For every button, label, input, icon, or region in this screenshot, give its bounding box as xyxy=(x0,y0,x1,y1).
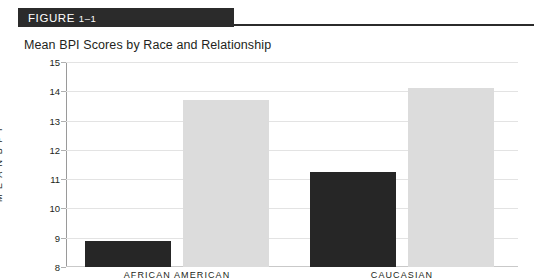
bar xyxy=(408,88,494,267)
y-axis-tick xyxy=(61,179,66,180)
y-axis-tick-label: 8 xyxy=(40,262,60,273)
y-axis-tick-labels: 89101112131415 xyxy=(40,62,60,267)
gridline xyxy=(66,62,518,63)
figure-page: FIGURE 1–1 Mean BPI Scores by Race and R… xyxy=(0,0,544,279)
y-axis-tick-label: 10 xyxy=(40,203,60,214)
figure-banner-number: 1–1 xyxy=(79,13,97,24)
chart-canvas xyxy=(66,62,518,267)
y-axis-tick xyxy=(61,267,66,268)
y-axis-tick-label: 11 xyxy=(40,174,60,185)
x-axis-label: CAUCASIAN xyxy=(312,270,492,279)
y-axis-tick xyxy=(61,150,66,151)
y-axis-tick-label: 15 xyxy=(40,57,60,68)
header-rule xyxy=(234,24,534,26)
figure-banner-text: FIGURE 1–1 xyxy=(18,12,97,24)
y-axis-tick xyxy=(61,62,66,63)
figure-banner: FIGURE 1–1 xyxy=(18,8,234,27)
y-axis-line xyxy=(66,62,67,267)
figure-banner-word: FIGURE xyxy=(28,12,75,24)
y-axis-tick-label: 12 xyxy=(40,144,60,155)
y-axis-tick-label: 13 xyxy=(40,115,60,126)
y-axis-tick xyxy=(61,91,66,92)
bar xyxy=(183,100,269,267)
y-axis-tick xyxy=(61,121,66,122)
bar xyxy=(310,172,396,267)
y-axis-title: M E A N B P I xyxy=(0,62,4,267)
y-axis-tick xyxy=(61,238,66,239)
y-axis-tick xyxy=(61,208,66,209)
bar xyxy=(85,241,171,267)
x-axis-label: AFRICAN AMERICAN xyxy=(87,270,267,279)
y-axis-tick-label: 9 xyxy=(40,232,60,243)
y-axis-tick-label: 14 xyxy=(40,86,60,97)
figure-title: Mean BPI Scores by Race and Relationship xyxy=(24,38,271,52)
chart-plot-area: AFRICAN AMERICANCAUCASIAN xyxy=(66,62,518,267)
